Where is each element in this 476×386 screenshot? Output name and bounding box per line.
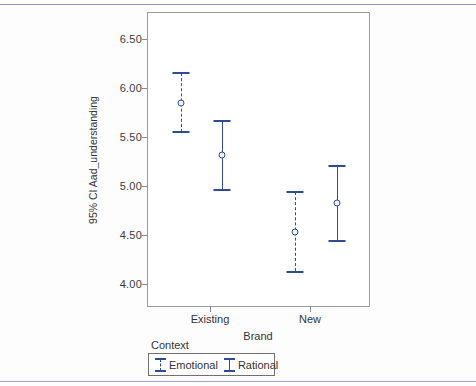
legend-item-rational[interactable]: Rational <box>218 358 278 372</box>
mean-marker <box>334 200 341 207</box>
y-tick-mark <box>142 39 147 40</box>
plot-area <box>147 12 370 307</box>
y-tick-label: 4.00 <box>120 278 142 290</box>
legend-label: Rational <box>238 359 278 371</box>
error-bar-cap-lower <box>287 271 304 273</box>
y-axis-title: 95% CI Aad_understanding <box>87 96 99 224</box>
legend-title: Context <box>151 339 189 351</box>
mean-marker <box>292 229 299 236</box>
mean-marker <box>219 152 226 159</box>
y-tick-mark <box>142 88 147 89</box>
error-bar-cap-lower <box>214 189 231 191</box>
y-tick-mark <box>142 284 147 285</box>
y-tick-label: 6.50 <box>120 33 142 45</box>
legend-label: Emotional <box>169 359 218 371</box>
y-axis: 6.50 6.00 5.50 5.00 4.50 4.00 <box>100 0 142 386</box>
x-tick-label-new: New <box>299 313 321 325</box>
error-bar-chart: 6.50 6.00 5.50 5.00 4.50 4.00 95% CI Aad… <box>0 0 476 386</box>
error-bar-cap-lower <box>329 240 346 242</box>
y-tick-label: 5.50 <box>120 131 142 143</box>
y-tick-label: 4.50 <box>120 229 142 241</box>
legend-item-emotional[interactable]: Emotional <box>149 358 218 372</box>
x-tick-mark <box>210 307 211 312</box>
y-tick-label: 6.00 <box>120 82 142 94</box>
y-tick-mark <box>142 235 147 236</box>
legend: Emotional Rational <box>148 353 275 376</box>
x-axis-title: Brand <box>243 330 272 342</box>
x-tick-mark <box>310 307 311 312</box>
y-tick-label: 5.00 <box>120 180 142 192</box>
error-bar-solid-icon <box>224 358 235 372</box>
mean-marker <box>178 100 185 107</box>
y-tick-mark <box>142 186 147 187</box>
error-bar-dashed-icon <box>155 358 166 372</box>
y-tick-mark <box>142 137 147 138</box>
error-bar-cap-lower <box>173 131 190 133</box>
x-tick-label-existing: Existing <box>191 313 230 325</box>
